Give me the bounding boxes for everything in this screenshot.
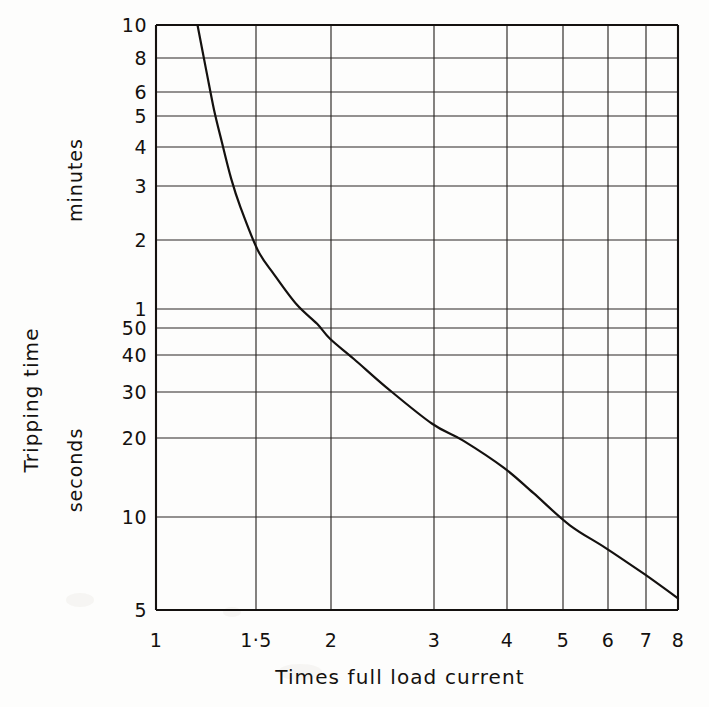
x-tick-3: 3 bbox=[428, 629, 441, 651]
y-tick-5s: 5 bbox=[134, 599, 147, 621]
y-tick-30s: 30 bbox=[122, 381, 147, 403]
y-tick-10s: 10 bbox=[122, 506, 147, 528]
y-axis-title: Tripping time bbox=[19, 327, 43, 473]
y-tick-300s: 5 bbox=[134, 105, 147, 127]
x-tick-1-5: 1·5 bbox=[240, 629, 272, 651]
y-tick-480s: 8 bbox=[134, 47, 147, 69]
x-axis-tick-labels: 1 1·5 2 3 4 5 6 7 8 bbox=[150, 629, 685, 651]
chart-canvas: 10 8 6 5 4 3 2 1 50 40 30 20 10 5 1 1·5 … bbox=[0, 0, 709, 707]
y-tick-120s: 2 bbox=[134, 229, 147, 251]
x-tick-5: 5 bbox=[557, 629, 570, 651]
x-tick-1: 1 bbox=[150, 629, 163, 651]
tripping-time-curve bbox=[198, 25, 679, 598]
y-tick-180s: 3 bbox=[134, 175, 147, 197]
x-tick-2: 2 bbox=[325, 629, 338, 651]
y-axis-unit-seconds: seconds bbox=[64, 428, 86, 513]
x-tick-7: 7 bbox=[640, 629, 653, 651]
y-axis-unit-minutes: minutes bbox=[64, 138, 86, 222]
y-tick-20s: 20 bbox=[122, 427, 147, 449]
x-tick-4: 4 bbox=[501, 629, 514, 651]
x-tick-6: 6 bbox=[602, 629, 615, 651]
y-tick-240s: 4 bbox=[134, 136, 147, 158]
trip-curve-figure: 10 8 6 5 4 3 2 1 50 40 30 20 10 5 1 1·5 … bbox=[0, 0, 709, 707]
y-tick-50s: 50 bbox=[122, 317, 147, 339]
y-tick-40s: 40 bbox=[122, 344, 147, 366]
y-tick-600s: 10 bbox=[122, 14, 147, 36]
vertical-gridlines bbox=[256, 25, 646, 610]
x-axis-title: Times full load current bbox=[274, 665, 524, 689]
y-tick-360s: 6 bbox=[134, 81, 147, 103]
plot-frame bbox=[156, 25, 678, 610]
horizontal-gridlines bbox=[156, 58, 678, 517]
x-tick-8: 8 bbox=[672, 629, 685, 651]
y-axis-tick-labels: 10 8 6 5 4 3 2 1 50 40 30 20 10 5 bbox=[122, 14, 147, 621]
